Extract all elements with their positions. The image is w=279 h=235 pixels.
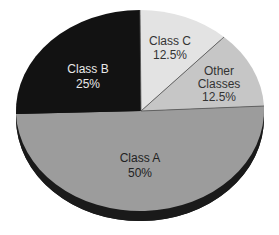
label-class-a: Class A: [120, 151, 161, 165]
label-class-b-pct: 25%: [76, 77, 100, 91]
label-other-classes-pct: 12.5%: [202, 90, 236, 104]
label-other-classes-2: Classes: [198, 77, 241, 91]
label-class-a-pct: 50%: [128, 166, 152, 180]
label-class-b: Class B: [67, 62, 108, 76]
label-class-c: Class C: [149, 34, 191, 48]
label-other-classes-1: Other: [204, 64, 234, 78]
label-class-c-pct: 12.5%: [153, 48, 187, 62]
pie-chart: Class A 50% Class B 25% Class C 12.5% Ot…: [0, 0, 279, 235]
